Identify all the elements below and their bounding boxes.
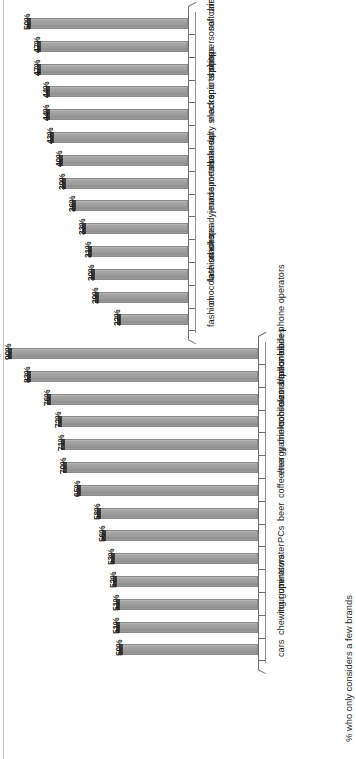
bar[interactable] [116,622,258,633]
bar[interactable] [111,553,258,564]
axis-end-cap [188,2,196,7]
bar-value-label: 71% [57,435,66,451]
axis-title: % who only considers a few brands [344,595,353,742]
axis-tick [259,569,265,570]
bar[interactable] [116,599,258,610]
bar-value-label: 30% [87,264,96,280]
axis-tick [259,524,265,525]
axis-tick [259,615,265,616]
axis-tick [259,501,265,502]
axis-tick [259,364,265,365]
axis-tick [259,546,265,547]
axis-tick [259,660,265,661]
bar-value-label: 43% [46,128,55,144]
bar-value-label: 40% [55,150,64,166]
category-label: coffee/tea [277,458,286,498]
axis-tick [189,216,195,217]
axis-tick [259,478,265,479]
bar[interactable] [77,485,258,496]
category-label: chocolate snacks [207,234,216,304]
bar-value-label: 65% [73,480,82,496]
bar-value-label: 50% [23,14,32,30]
bar-value-label: 58% [93,503,102,519]
bar[interactable] [46,109,188,120]
bar-value-label: 72% [54,412,63,428]
bar-value-label: 50% [115,640,124,656]
bar[interactable] [72,200,188,211]
bar[interactable] [97,508,258,519]
bar[interactable] [27,18,188,29]
category-label: chewing gum [277,580,286,634]
axis-tick [259,432,265,433]
axis-tick [259,387,265,388]
bar[interactable] [88,246,188,257]
axis-tick [259,410,265,411]
category-label: cars [277,640,286,657]
bar-value-label: 36% [68,196,77,212]
axis-tick [189,125,195,126]
bar[interactable] [95,292,188,303]
bar[interactable] [62,178,188,189]
bar[interactable] [63,462,258,473]
bar[interactable] [119,644,258,655]
bar-value-label: 47% [33,36,42,52]
bar-value-label: 76% [43,389,52,405]
bar[interactable] [117,314,188,325]
axis-plinth [265,342,274,663]
axis-tick [189,80,195,81]
bar[interactable] [8,348,258,359]
chart-bottom-plot: 90%mobile phone operators83%banks76%razo… [0,330,356,759]
bar-value-label: 70% [59,458,68,474]
chart-top: 50%soft drinks47%personal care47%spirits… [0,0,356,380]
bar[interactable] [37,64,188,75]
axis-tick [189,34,195,35]
bar-value-label: 31% [84,242,93,258]
axis-tick [189,194,195,195]
bar[interactable] [58,416,258,427]
axis-tick [259,592,265,593]
bar[interactable] [27,371,258,382]
bar-value-label: 52% [109,572,118,588]
axis-tick [189,239,195,240]
axis-tick [189,285,195,286]
axis-tick [189,57,195,58]
bar[interactable] [61,439,258,450]
bar-value-label: 39% [58,173,67,189]
bar-value-label: 29% [91,287,100,303]
bar[interactable] [59,155,188,166]
chart-top-plot: 50%soft drinks47%personal care47%spirits… [0,0,356,380]
category-label: personal care [207,0,216,54]
chart-bottom: 90%mobile phone operators83%banks76%razo… [0,330,356,759]
axis-tick [189,171,195,172]
bar[interactable] [46,86,188,97]
axis-tick [189,148,195,149]
bar[interactable] [113,576,258,587]
bar-value-label: 90% [4,344,13,360]
bar[interactable] [82,223,188,234]
bar-value-label: 22% [113,310,122,326]
axis-tick [259,638,265,639]
bar-value-label: 53% [107,549,116,565]
bar[interactable] [50,132,188,143]
axis-end-cap [258,332,266,337]
bar[interactable] [47,394,258,405]
bar-value-label: 51% [112,594,121,610]
bar-value-label: 47% [33,59,42,75]
bar[interactable] [102,530,258,541]
bar-value-label: 56% [98,526,107,542]
axis-tick [189,262,195,263]
axis-plinth [195,12,204,333]
bar[interactable] [91,269,188,280]
bar-value-label: 83% [23,366,32,382]
bar-value-label: 44% [42,105,51,121]
category-label: beer [277,502,286,520]
category-label: fashion [207,298,216,328]
axis-tick [259,455,265,456]
bar-value-label: 33% [78,219,87,235]
bar-value-label: 44% [42,82,51,98]
bar[interactable] [37,41,188,52]
category-label: PCs [277,526,286,543]
axis-tick [189,102,195,103]
axis-end-cap [258,669,266,674]
axis-tick [189,308,195,309]
